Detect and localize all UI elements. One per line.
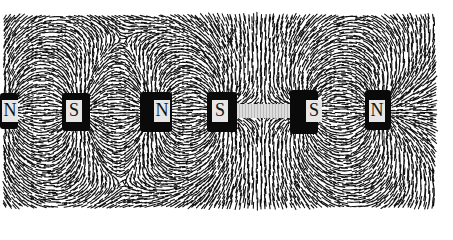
pole-label-1: N [2,100,18,122]
pole-label-4: S [212,100,228,122]
pole-label-6: N [369,100,385,122]
iron-bridge [237,104,290,118]
pole-label-3: N [154,100,170,122]
pole-label-2: S [66,100,82,122]
pole-label-5: S [306,100,322,122]
